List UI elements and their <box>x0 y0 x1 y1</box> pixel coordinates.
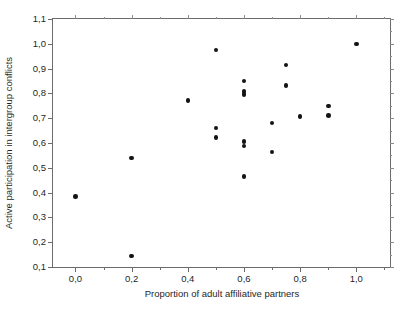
x-axis-tick <box>132 267 133 272</box>
y-axis-minor-tick-right <box>390 131 392 132</box>
y-axis-tick-label: 1,1 <box>33 14 46 24</box>
y-axis-tick-right <box>390 217 394 218</box>
y-axis-tick <box>48 44 53 45</box>
y-axis-tick <box>48 118 53 119</box>
scatter-plot-figure: Active participation in intergroup confl… <box>0 0 402 310</box>
x-axis-minor-tick-top <box>328 17 329 19</box>
x-axis-minor-tick <box>160 267 161 270</box>
y-axis-tick-label: 0,2 <box>33 237 46 247</box>
y-axis-tick <box>48 193 53 194</box>
plot-frame: 0,10,20,30,40,50,60,70,80,91,01,10,00,20… <box>52 18 391 268</box>
y-axis-tick-label: 0,5 <box>33 163 46 173</box>
data-point <box>214 135 219 140</box>
x-axis-minor-tick-top <box>216 17 217 19</box>
y-axis-tick-right <box>390 93 394 94</box>
x-axis-tick-top <box>188 15 189 19</box>
y-axis-tick <box>48 242 53 243</box>
y-axis-minor-tick-right <box>390 230 392 231</box>
data-point <box>326 113 331 118</box>
y-axis-minor-tick-right <box>390 155 392 156</box>
y-axis-tick <box>48 93 53 94</box>
y-axis-tick-right <box>390 242 394 243</box>
x-axis-minor-tick <box>272 267 273 270</box>
y-axis-tick-right <box>390 168 394 169</box>
data-point <box>73 194 78 199</box>
x-axis-minor-tick <box>216 267 217 270</box>
plot-area <box>53 19 390 267</box>
y-axis-tick <box>48 267 53 268</box>
x-axis-tick <box>356 267 357 272</box>
y-axis-tick-right <box>390 69 394 70</box>
data-point <box>354 42 359 47</box>
x-axis-tick-label: 1,0 <box>350 274 363 284</box>
x-axis-minor-tick <box>104 267 105 270</box>
x-axis-tick-top <box>356 15 357 19</box>
data-point <box>284 83 289 88</box>
x-axis-tick-label: 0,8 <box>294 274 307 284</box>
y-axis-tick-label: 0,7 <box>33 113 46 123</box>
x-axis-minor-tick-top <box>384 17 385 19</box>
x-axis-tick <box>244 267 245 272</box>
y-axis-tick-label: 0,4 <box>33 188 46 198</box>
y-axis-tick-label: 1,0 <box>33 39 46 49</box>
y-axis-tick-right <box>390 19 394 20</box>
y-axis-minor-tick-right <box>390 31 392 32</box>
data-point <box>242 79 247 84</box>
y-axis-minor-tick-right <box>390 56 392 57</box>
data-point <box>129 156 134 161</box>
x-axis-minor-tick-top <box>272 17 273 19</box>
x-axis-tick-top <box>132 15 133 19</box>
data-point <box>270 121 275 126</box>
y-axis-tick-right <box>390 267 394 268</box>
x-axis-tick-top <box>75 15 76 19</box>
x-axis-minor-tick-top <box>104 17 105 19</box>
y-axis-tick <box>48 69 53 70</box>
y-axis-minor-tick-right <box>390 255 392 256</box>
y-axis-tick <box>48 143 53 144</box>
x-axis-title: Proportion of adult affiliative partners <box>52 288 392 300</box>
data-point <box>242 92 247 97</box>
x-axis-minor-tick <box>384 267 385 270</box>
data-point <box>326 104 331 109</box>
x-axis-tick-label: 0,2 <box>125 274 138 284</box>
data-point <box>129 254 134 259</box>
y-axis-tick-right <box>390 193 394 194</box>
y-axis-title: Active participation in intergroup confl… <box>2 8 16 278</box>
y-axis-tick-label: 0,1 <box>33 262 46 272</box>
data-point <box>270 150 275 155</box>
data-point <box>242 144 247 149</box>
y-axis-minor-tick-right <box>390 205 392 206</box>
x-axis-tick-label: 0,0 <box>69 274 82 284</box>
x-axis-minor-tick-top <box>160 17 161 19</box>
y-axis-tick-right <box>390 143 394 144</box>
y-axis-tick <box>48 19 53 20</box>
y-axis-tick-right <box>390 44 394 45</box>
y-axis-tick-label: 0,3 <box>33 212 46 222</box>
data-point <box>214 48 219 53</box>
x-axis-tick <box>75 267 76 272</box>
data-point <box>214 126 219 131</box>
data-point <box>284 63 289 68</box>
y-axis-tick-label: 0,6 <box>33 138 46 148</box>
x-axis-tick-top <box>244 15 245 19</box>
y-axis-tick-right <box>390 118 394 119</box>
x-axis-tick <box>300 267 301 272</box>
data-point <box>298 114 303 119</box>
y-axis-tick-label: 0,8 <box>33 88 46 98</box>
y-axis-minor-tick-right <box>390 180 392 181</box>
y-axis-tick-label: 0,9 <box>33 64 46 74</box>
y-axis-tick <box>48 168 53 169</box>
y-axis-tick <box>48 217 53 218</box>
x-axis-tick <box>188 267 189 272</box>
x-axis-tick-label: 0,6 <box>237 274 250 284</box>
data-point <box>186 98 191 103</box>
y-axis-minor-tick-right <box>390 81 392 82</box>
y-axis-minor-tick-right <box>390 106 392 107</box>
x-axis-tick-top <box>300 15 301 19</box>
x-axis-tick-label: 0,4 <box>181 274 194 284</box>
data-point <box>242 174 247 179</box>
x-axis-minor-tick <box>328 267 329 270</box>
